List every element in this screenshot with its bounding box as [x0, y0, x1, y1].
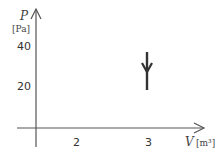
pv-diagram: P [Pa] 40 20 2 3 V [m³]	[0, 0, 222, 157]
y-tick-label-20: 20	[17, 80, 31, 93]
x-tick-label-2: 2	[73, 136, 80, 149]
x-tick-label-3: 3	[145, 136, 152, 149]
y-axis-unit-label: [Pa]	[12, 24, 30, 34]
x-axis-unit-label: [m³]	[196, 138, 215, 148]
y-tick-label-40: 40	[17, 40, 31, 53]
y-axis-variable-label: P	[19, 9, 29, 23]
x-axis-variable-label: V	[185, 135, 195, 149]
